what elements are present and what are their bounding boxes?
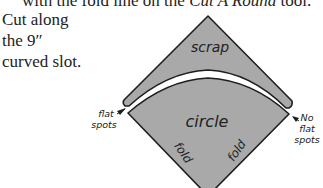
flat-spots-label-line2: spots xyxy=(91,119,117,130)
no-flat-spots-label-line3: spots xyxy=(294,134,320,145)
circle-piece xyxy=(128,78,289,188)
no-flat-spots-label-line2: flat xyxy=(299,123,316,134)
scrap-label: scrap xyxy=(191,39,229,55)
cutting-diagram: scrap circle fold fold flat spots No fla… xyxy=(0,0,323,188)
no-flat-spots-label-line1: No xyxy=(301,112,314,123)
circle-label: circle xyxy=(186,112,229,131)
flat-spots-label-line1: flat xyxy=(98,108,115,119)
